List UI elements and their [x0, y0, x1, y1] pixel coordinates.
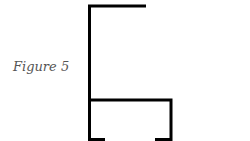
bottom-channel-line [90, 100, 172, 140]
profile-shape-diagram [0, 0, 250, 141]
top-flange-and-web-line [90, 6, 147, 140]
